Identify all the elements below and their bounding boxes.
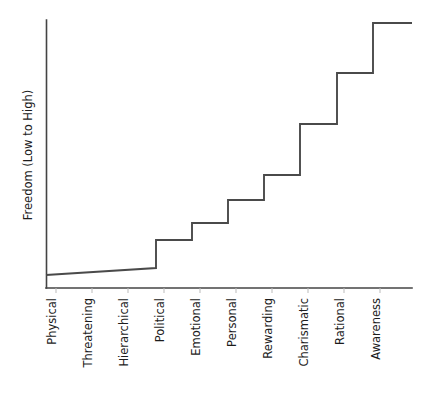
x-tick-label-political: Political: [153, 298, 167, 342]
x-tick-label-hierarchical: Hierarchical: [117, 298, 131, 367]
x-tick-label-awareness: Awareness: [369, 298, 383, 360]
chart-figure: Freedom (Low to High) Physical Threateni…: [0, 0, 428, 398]
x-tick-label-threatening: Threatening: [81, 298, 95, 369]
chart-canvas: Freedom (Low to High) Physical Threateni…: [0, 0, 428, 398]
x-tick-label-emotional: Emotional: [189, 298, 203, 356]
freedom-step-line: [46, 23, 412, 275]
x-tick-label-personal: Personal: [225, 298, 239, 347]
x-tick-label-charismatic: Charismatic: [297, 298, 311, 367]
x-tick-label-rewarding: Rewarding: [261, 298, 275, 359]
x-axis-tick-labels: Physical Threatening Hierarchical Politi…: [45, 298, 383, 369]
x-tick-label-physical: Physical: [45, 298, 59, 345]
y-axis-title: Freedom (Low to High): [21, 90, 35, 221]
x-tick-label-rational: Rational: [333, 298, 347, 345]
